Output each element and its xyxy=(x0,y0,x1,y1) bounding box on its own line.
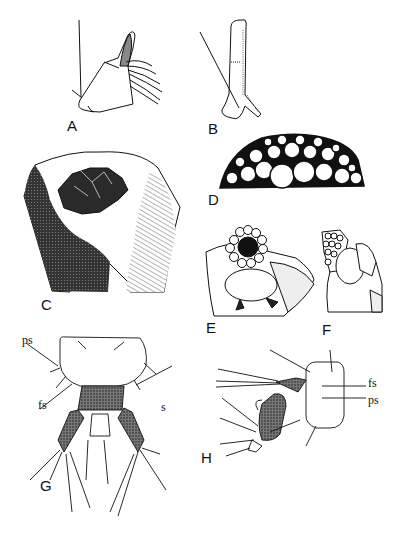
panel-a-drawing xyxy=(72,20,162,112)
annotation-g-fs: fs xyxy=(38,399,47,411)
annotation-g-ps: ps xyxy=(22,334,33,346)
panel-label-c: C xyxy=(41,297,52,312)
annotation-h-fs: fs xyxy=(368,377,377,389)
annotation-h-ps: ps xyxy=(368,394,379,406)
panel-label-b: B xyxy=(208,121,218,136)
panel-label-a: A xyxy=(67,118,77,133)
panel-e-drawing xyxy=(206,226,314,317)
panel-d-drawing xyxy=(220,134,364,188)
panel-label-d: D xyxy=(208,192,219,207)
panel-h-drawing xyxy=(216,350,366,456)
panel-b-drawing xyxy=(200,20,261,119)
panel-c-drawing xyxy=(24,152,180,292)
panel-f-drawing xyxy=(322,230,382,312)
panel-label-e: E xyxy=(206,320,216,335)
panel-label-h: H xyxy=(201,450,212,465)
panel-label-g: G xyxy=(40,478,52,493)
annotation-g-s: s xyxy=(161,401,166,413)
panel-label-f: F xyxy=(322,322,331,337)
